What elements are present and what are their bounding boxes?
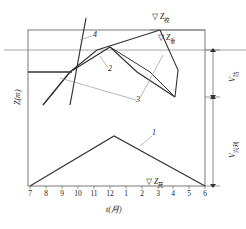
volume-symbol-flood: V (228, 77, 237, 82)
volume-label-benefit: V兴利 (228, 141, 240, 158)
x-tick-label-5: 5 (183, 189, 195, 198)
volume-label-flood: V防 (228, 71, 240, 82)
curve-label-4: 4 (93, 31, 97, 39)
x-tick-label-6: 6 (199, 189, 211, 198)
x-tick-label-7: 7 (24, 189, 36, 198)
level-subscript-check: 校 (164, 17, 170, 23)
level-subscript-normal: 重 (170, 38, 176, 44)
x-axis-label: t(月) (106, 206, 122, 214)
leader-line-1 (140, 136, 152, 146)
curve-2-line (43, 47, 175, 105)
volume-subscript-flood: 防 (233, 71, 239, 77)
water-level-dead: ▽ Z死 (146, 177, 164, 189)
x-tick-label-8: 8 (40, 189, 52, 198)
x-tick-label-9: 9 (56, 189, 68, 198)
leader-line-2 (100, 56, 108, 68)
x-tick-label-2: 2 (136, 189, 148, 198)
curve-2-secondary (110, 47, 175, 97)
x-tick-label-3: 3 (152, 189, 164, 198)
level-marker-check-icon: ▽ (152, 12, 158, 21)
curve-label-1: 1 (152, 129, 156, 137)
curve-1-line (30, 136, 205, 186)
curve-label-2: 2 (108, 65, 112, 73)
level-subscript-dead: 死 (158, 182, 164, 188)
water-level-check: ▽ Z校 (152, 12, 170, 24)
volume-symbol-benefit: V (228, 153, 237, 158)
x-tick-label-11: 11 (87, 189, 101, 198)
y-axis-label: Z(m) (13, 89, 22, 105)
level-marker-dead-icon: ▽ (146, 177, 152, 186)
curve-label-3: 3 (136, 96, 140, 104)
water-level-normal: ▽ Z重 (158, 33, 176, 45)
x-tick-label-10: 10 (71, 189, 85, 198)
x-tick-label-12: 12 (103, 189, 117, 198)
level-marker-normal-icon: ▽ (158, 33, 164, 42)
x-tick-label-1: 1 (120, 189, 132, 198)
volume-subscript-benefit: 兴利 (233, 141, 239, 153)
x-tick-label-4: 4 (167, 189, 179, 198)
